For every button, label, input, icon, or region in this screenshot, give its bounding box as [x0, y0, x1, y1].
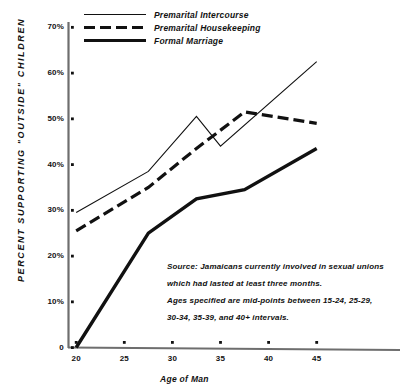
chart-legend: Premarital Intercourse Premarital Housek…	[84, 8, 261, 47]
y-tick-label-70%: 70%	[24, 22, 64, 31]
y-tick-label-0: 0	[24, 343, 64, 352]
series-line-premarital-housekeeping	[76, 112, 317, 231]
x-axis-tick-marks	[75, 341, 318, 344]
legend-item-premarital-housekeeping: Premarital Housekeeping	[84, 21, 261, 34]
series-line-premarital-intercourse	[76, 62, 317, 213]
y-tick-label-40%: 40%	[24, 160, 64, 169]
source-note-line-4: 30-34, 35-39, and 40+ intervals.	[167, 309, 384, 326]
y-axis-tick-marks	[71, 26, 74, 349]
x-tick-label-35: 35	[209, 354, 233, 363]
x-axis-title: Age of Man	[160, 374, 209, 384]
chart-plot-area	[0, 0, 406, 391]
x-tick-label-45: 45	[305, 354, 329, 363]
legend-swatch-dashed-line-icon	[84, 22, 146, 34]
y-tick-label-20%: 20%	[24, 251, 64, 260]
legend-label-premarital-housekeeping: Premarital Housekeeping	[154, 23, 261, 33]
y-tick-label-60%: 60%	[24, 68, 64, 77]
source-note-line-2: which had lasted at least three months.	[167, 275, 384, 292]
y-tick-label-50%: 50%	[24, 114, 64, 123]
y-tick-label-10%: 10%	[24, 297, 64, 306]
source-note-line-3: Ages specified are mid-points between 15…	[167, 292, 384, 309]
legend-swatch-thick-line-icon	[84, 35, 146, 47]
chart-figure: PERCENT SUPPORTING "OUTSIDE" CHILDREN Ag…	[0, 0, 406, 391]
legend-item-formal-marriage: Formal Marriage	[84, 34, 261, 47]
x-tick-label-30: 30	[160, 354, 184, 363]
legend-swatch-thin-line-icon	[84, 9, 146, 21]
legend-item-premarital-intercourse: Premarital Intercourse	[84, 8, 261, 21]
x-tick-label-20: 20	[64, 354, 88, 363]
legend-label-formal-marriage: Formal Marriage	[154, 36, 223, 46]
x-tick-label-40: 40	[257, 354, 281, 363]
x-tick-label-25: 25	[112, 354, 136, 363]
legend-label-premarital-intercourse: Premarital Intercourse	[154, 10, 249, 20]
source-note: Source: Jamaicans currently involved in …	[167, 258, 384, 326]
source-note-line-1: Source: Jamaicans currently involved in …	[167, 258, 384, 275]
x-axis-line	[68, 348, 400, 351]
y-tick-label-30%: 30%	[24, 205, 64, 214]
